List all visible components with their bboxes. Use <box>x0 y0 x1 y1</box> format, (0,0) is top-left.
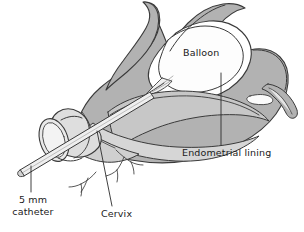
label-balloon: Balloon <box>183 47 219 59</box>
label-cervix: Cervix <box>101 208 132 220</box>
cornual-lumen <box>247 95 273 105</box>
label-catheter-line1: 5 mm <box>19 194 47 205</box>
illustration-figure: Balloon Endometrial lining Cervix 5 mmca… <box>0 0 304 232</box>
label-catheter: 5 mmcatheter <box>8 194 58 217</box>
label-catheter-line2: catheter <box>12 206 53 217</box>
label-endometrial-lining: Endometrial lining <box>182 147 271 159</box>
